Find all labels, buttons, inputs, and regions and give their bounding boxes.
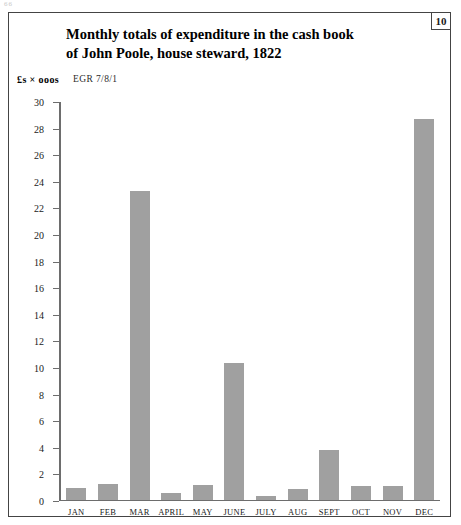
bar-sept	[319, 450, 339, 499]
bar-slot	[155, 102, 187, 500]
y-tick-mark: 4	[53, 448, 59, 449]
bar-april	[161, 493, 181, 500]
x-axis-label-june: JUNE	[219, 507, 251, 517]
plate-number-badge: 10	[431, 12, 451, 30]
figure-title: Monthly totals of expenditure in the cas…	[66, 25, 416, 63]
x-axis-label-nov: NOV	[377, 507, 409, 517]
bar-oct	[351, 486, 371, 499]
bar-slot	[345, 102, 377, 500]
y-tick-mark: 26	[53, 155, 59, 156]
bar-mar	[130, 191, 150, 500]
source-reference-label: EGR 7/8/1	[73, 74, 118, 84]
y-tick-mark: 24	[53, 182, 59, 183]
y-axis-units-label: £s × ooos	[17, 74, 59, 85]
bar-series	[61, 102, 441, 500]
bar-slot	[250, 102, 282, 500]
y-tick-mark: 12	[53, 341, 59, 342]
y-tick-mark: 14	[53, 315, 59, 316]
x-axis-label-feb: FEB	[92, 507, 124, 517]
y-tick-label: 16	[34, 283, 44, 294]
y-tick-mark: 22	[53, 208, 59, 209]
x-axis-label-dec: DEC	[408, 507, 440, 517]
bar-slot	[377, 102, 409, 500]
y-tick-label: 20	[34, 230, 44, 241]
x-axis-label-july: JULY	[250, 507, 282, 517]
y-tick-label: 10	[34, 363, 44, 374]
y-tick-mark: 16	[53, 288, 59, 289]
y-tick-label: 30	[34, 97, 44, 108]
y-tick-label: 26	[34, 150, 44, 161]
x-axis-label-may: MAY	[187, 507, 219, 517]
y-tick-label: 0	[39, 496, 44, 507]
y-tick-mark: 30	[53, 102, 59, 103]
y-tick-label: 24	[34, 176, 44, 187]
x-axis-labels: JANFEBMARAPRILMAYJUNEJULYAUGSEPTOCTNOVDE…	[61, 507, 441, 517]
y-tick-mark: 2	[53, 474, 59, 475]
y-tick-mark: 10	[53, 368, 59, 369]
y-tick-label: 2	[39, 469, 44, 480]
y-tick-label: 12	[34, 336, 44, 347]
bar-slot	[124, 102, 156, 500]
bar-feb	[98, 484, 118, 500]
bar-slot	[187, 102, 219, 500]
y-tick-mark: 18	[53, 262, 59, 263]
bar-slot	[219, 102, 251, 500]
bar-july	[256, 496, 276, 499]
x-axis-label-jan: JAN	[61, 507, 93, 517]
x-axis-label-sept: SEPT	[314, 507, 346, 517]
bar-aug	[288, 489, 308, 500]
bar-june	[224, 363, 244, 499]
x-axis-label-aug: AUG	[282, 507, 314, 517]
bar-slot	[92, 102, 124, 500]
bar-nov	[383, 486, 403, 499]
y-tick-label: 8	[39, 389, 44, 400]
y-tick-label: 6	[39, 416, 44, 427]
y-tick-mark: 20	[53, 235, 59, 236]
bar-may	[193, 485, 213, 500]
bar-slot	[314, 102, 346, 500]
y-tick-mark: 28	[53, 129, 59, 130]
bar-slot	[282, 102, 314, 500]
y-tick-label: 14	[34, 309, 44, 320]
bar-slot	[408, 102, 440, 500]
figure-frame: 10 Monthly totals of expenditure in the …	[8, 12, 451, 517]
bar-slot	[61, 102, 93, 500]
y-tick-mark: 6	[53, 421, 59, 422]
bar-dec	[414, 119, 434, 499]
chart-plot-area: 302826242220181614121086420	[59, 102, 440, 501]
page-scan-artifact: 66	[4, 0, 13, 8]
y-tick-label: 28	[34, 123, 44, 134]
y-tick-label: 4	[39, 442, 44, 453]
figure-title-line-1: Monthly totals of expenditure in the cas…	[66, 25, 416, 44]
y-tick-label: 22	[34, 203, 44, 214]
x-axis-label-mar: MAR	[124, 507, 156, 517]
x-axis-label-april: APRIL	[155, 507, 187, 517]
y-tick-mark: 0	[53, 501, 59, 502]
y-tick-mark: 8	[53, 395, 59, 396]
figure-title-line-2: of John Poole, house steward, 1822	[66, 44, 416, 63]
y-tick-label: 18	[34, 256, 44, 267]
x-axis-label-oct: OCT	[345, 507, 377, 517]
bar-jan	[66, 488, 86, 499]
